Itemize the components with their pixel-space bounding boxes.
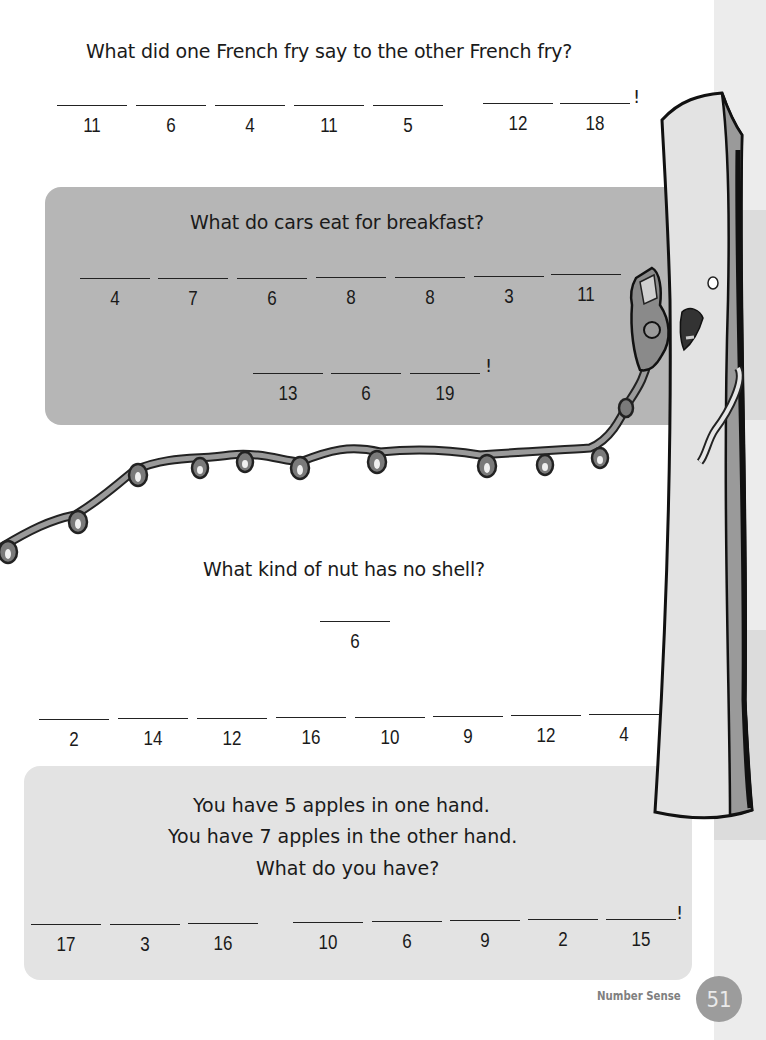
answer-blank[interactable]: 12 (511, 715, 581, 747)
letter-code: 10 (360, 726, 420, 749)
answer-blank[interactable]: 11 (294, 105, 364, 137)
cord-coil-icon (0, 399, 633, 563)
answer-blank[interactable]: 16 (188, 923, 258, 955)
answer-blank[interactable]: 17 (31, 924, 101, 956)
letter-code: 16 (193, 932, 253, 955)
letter-code: 6 (141, 114, 201, 137)
letter-code: 12 (202, 727, 262, 750)
letter-code: 4 (220, 114, 280, 137)
blank-line (560, 103, 630, 104)
blank-line (39, 719, 109, 720)
answer-blank[interactable]: 15 (606, 919, 676, 951)
letter-code: 2 (533, 928, 593, 951)
blank-line (589, 714, 659, 715)
letter-code: 18 (565, 112, 625, 135)
exclamation-mark: ! (676, 902, 683, 923)
answer-blank[interactable]: 12 (197, 718, 267, 750)
answer-blank[interactable]: 10 (293, 922, 363, 954)
letter-code: 7 (163, 287, 223, 310)
exclamation-mark: ! (633, 86, 640, 107)
blank-line (320, 621, 390, 622)
letter-code: 10 (298, 931, 358, 954)
answer-blank[interactable]: 3 (474, 276, 544, 308)
puzzle-question: What did one French fry say to the other… (86, 40, 572, 62)
answer-blank[interactable]: 4 (215, 105, 285, 137)
letter-code: 9 (455, 929, 515, 952)
letter-code: 13 (258, 382, 318, 405)
blank-line (188, 923, 258, 924)
blank-line (118, 718, 188, 719)
answer-blank[interactable]: 2 (528, 919, 598, 951)
answer-blank[interactable]: 7 (158, 278, 228, 310)
answer-blank[interactable]: 8 (316, 277, 386, 309)
answer-blank[interactable]: 4 (80, 278, 150, 310)
answer-blank[interactable]: 14 (118, 718, 188, 750)
letter-code: 15 (611, 928, 671, 951)
answer-blank[interactable]: 6 (331, 373, 401, 405)
french-fry-illustration (0, 0, 766, 1040)
answer-blank[interactable]: 2 (39, 719, 109, 751)
blank-line (158, 278, 228, 279)
letter-code: 3 (115, 933, 175, 956)
letter-code: 14 (123, 727, 183, 750)
blank-line (331, 373, 401, 374)
puzzle-question-line: You have 5 apples in one hand. (193, 794, 490, 816)
answer-blank[interactable]: 19 (410, 373, 480, 405)
letter-code: 17 (36, 933, 96, 956)
letter-code: 3 (479, 285, 539, 308)
answer-blank[interactable]: 3 (110, 924, 180, 956)
answer-blank[interactable]: 9 (433, 716, 503, 748)
letter-code: 11 (299, 114, 359, 137)
blank-line (293, 922, 363, 923)
answer-blank[interactable]: 6 (372, 921, 442, 953)
blank-line (215, 105, 285, 106)
answer-blank[interactable]: 11 (551, 274, 621, 306)
letter-code: 8 (321, 286, 381, 309)
blank-line (511, 715, 581, 716)
answer-blank[interactable]: 12 (483, 103, 553, 135)
page-number-badge: 51 (696, 976, 742, 1022)
blank-line (237, 278, 307, 279)
letter-code: 4 (594, 723, 654, 746)
blank-line (253, 373, 323, 374)
answer-blank[interactable]: 6 (237, 278, 307, 310)
letter-code: 6 (325, 630, 385, 653)
letter-code: 5 (378, 114, 438, 137)
exclamation-mark: ! (485, 355, 492, 376)
answer-blank[interactable]: 10 (355, 717, 425, 749)
phone-handset-icon (631, 268, 668, 370)
letter-code: 8 (400, 286, 460, 309)
blank-line (316, 277, 386, 278)
letter-code: 12 (488, 112, 548, 135)
blank-line (276, 717, 346, 718)
answer-blank[interactable]: 9 (450, 920, 520, 952)
answer-blank[interactable]: 6 (320, 621, 390, 653)
letter-code: 6 (377, 930, 437, 953)
answer-blank[interactable]: 4 (589, 714, 659, 746)
answer-blank[interactable]: 18 (560, 103, 630, 135)
letter-code: 6 (242, 287, 302, 310)
answer-blank[interactable]: 6 (136, 105, 206, 137)
section-label: Number Sense (597, 989, 681, 1003)
letter-code: 6 (336, 382, 396, 405)
blank-line (528, 919, 598, 920)
blank-line (474, 276, 544, 277)
letter-code: 12 (516, 724, 576, 747)
letter-code: 4 (85, 287, 145, 310)
puzzle-question: What do cars eat for breakfast? (190, 211, 484, 233)
blank-line (80, 278, 150, 279)
answer-blank[interactable]: 16 (276, 717, 346, 749)
blank-line (372, 921, 442, 922)
blank-line (31, 924, 101, 925)
blank-line (355, 717, 425, 718)
answer-blank[interactable]: 13 (253, 373, 323, 405)
blank-line (450, 920, 520, 921)
blank-line (57, 105, 127, 106)
answer-blank[interactable]: 8 (395, 277, 465, 309)
blank-line (395, 277, 465, 278)
blank-line (110, 924, 180, 925)
answer-blank[interactable]: 5 (373, 105, 443, 137)
answer-blank[interactable]: 11 (57, 105, 127, 137)
blank-line (294, 105, 364, 106)
letter-code: 11 (556, 283, 616, 306)
